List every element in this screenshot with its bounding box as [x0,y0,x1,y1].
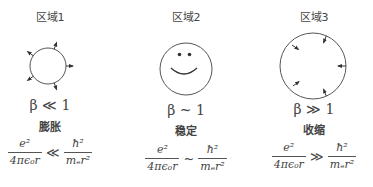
region-3-panel: 区域3 β ≫ 1 收缩 e² 4πϵ₀r ≫ ħ² mₑr² [262,0,366,187]
state-label: 稳定 [133,122,239,138]
denominator: mₑr² [64,152,92,168]
energy-inequality: e² 4πϵ₀r ≫ ħ² mₑr² [262,141,366,172]
denominator: mₑr² [328,156,356,172]
region-title: 区域2 [133,8,239,24]
state-label: 收缩 [262,121,366,137]
numerator: ħ² [70,137,86,152]
state-label: 膨胀 [0,118,100,134]
denominator: mₑr² [198,158,226,174]
coulomb-term: e² 4πϵ₀r [272,141,306,172]
energy-inequality: e² 4πϵ₀r ≪ ħ² mₑr² [0,137,100,168]
numerator: ħ² [334,141,350,156]
numerator: e² [155,143,170,158]
beta-condition: β ≪ 1 [0,97,100,113]
relation-symbol: ≫ [310,149,324,164]
relation-symbol: ~ [183,151,194,166]
coulomb-term: e² 4πϵ₀r [145,143,179,174]
coulomb-term: e² 4πϵ₀r [8,137,42,168]
energy-relation: e² 4πϵ₀r ~ ħ² mₑr² [133,143,239,174]
region-title: 区域1 [0,8,100,24]
numerator: e² [17,137,32,152]
kinetic-term: ħ² mₑr² [198,143,226,174]
numerator: e² [281,141,296,156]
kinetic-term: ħ² mₑr² [64,137,92,168]
region-1-panel: 区域1 β ≪ 1 膨胀 e² 4πϵ₀r ≪ ħ² mₑr² [0,0,100,187]
denominator: 4πϵ₀r [145,158,179,174]
numerator: ħ² [205,143,221,158]
denominator: 4πϵ₀r [272,156,306,172]
beta-condition: β ~ 1 [133,102,239,118]
region-title: 区域3 [262,8,366,24]
kinetic-term: ħ² mₑr² [328,141,356,172]
relation-symbol: ≪ [46,145,60,160]
beta-condition: β ≫ 1 [262,101,366,117]
denominator: 4πϵ₀r [8,152,42,168]
region-2-panel: 区域2 β ~ 1 稳定 e² 4πϵ₀r ~ ħ² mₑr² [133,0,239,187]
